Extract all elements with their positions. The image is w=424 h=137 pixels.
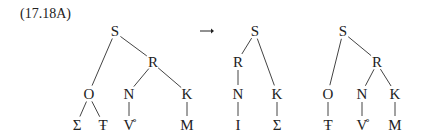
tree-node-k: K: [182, 86, 193, 102]
tree-node-r: R: [372, 54, 382, 70]
tree-edge: [330, 39, 342, 85]
tree-1: SRONKΣŦV̊M: [73, 23, 194, 133]
tree-node-s: S: [339, 23, 347, 39]
tree-edge: [242, 38, 252, 54]
tree-edge: [158, 68, 181, 88]
tree-node-n: N: [233, 86, 244, 102]
tree-node-i: I: [236, 117, 241, 133]
tree-edge: [257, 39, 274, 86]
tree-node-r: R: [233, 54, 243, 70]
tree-edge: [80, 102, 87, 117]
tree-node-m: M: [388, 117, 401, 133]
tree-edge: [92, 101, 100, 116]
tree-edge: [380, 69, 391, 86]
tree-node-k: K: [272, 86, 283, 102]
tree-node-s: S: [251, 23, 259, 39]
tree-node-tbar: Ŧ: [98, 117, 107, 133]
tree-edge: [120, 36, 146, 56]
syntax-tree-diagram: SRONKΣŦV̊MSRNKIΣSRONKŦV̊M: [0, 0, 424, 137]
tree-edge: [92, 38, 112, 85]
tree-node-n: N: [124, 86, 135, 102]
tree-node-k: K: [390, 86, 401, 102]
tree-node-sigma: Σ: [73, 117, 82, 133]
tree-node-vring: V̊: [357, 117, 370, 133]
transformation-arrow: [200, 29, 214, 34]
tree-node-o: O: [323, 86, 334, 102]
tree-node-n: N: [357, 86, 368, 102]
tree-node-s: S: [111, 23, 119, 39]
tree-node-o: O: [84, 86, 95, 102]
tree-node-vring: V̊: [124, 117, 137, 133]
tree-node-tbar: Ŧ: [323, 117, 332, 133]
tree-edge: [348, 37, 371, 56]
tree-edge: [134, 69, 149, 87]
tree-3: SRONKŦV̊M: [323, 23, 402, 133]
tree-edge: [365, 69, 374, 85]
tree-2: SRNKIΣ: [233, 23, 283, 133]
tree-node-sigma: Σ: [273, 117, 282, 133]
tree-node-m: M: [180, 117, 193, 133]
tree-node-r: R: [148, 54, 158, 70]
